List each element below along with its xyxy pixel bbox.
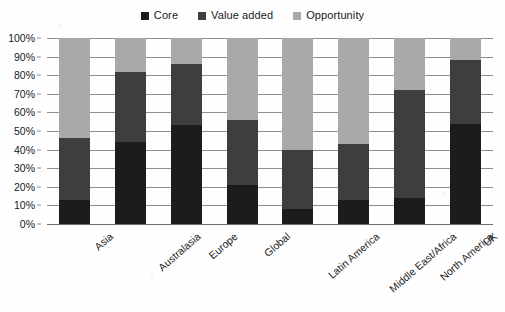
- y-tick-mark: [37, 38, 41, 39]
- x-tick-label: Australasia: [155, 230, 202, 273]
- y-tick-mark: [37, 112, 41, 113]
- y-tick-label: 10%: [14, 199, 35, 211]
- bar-segment[interactable]: [59, 38, 90, 138]
- y-tick-label: 50%: [14, 125, 35, 137]
- bar-segment[interactable]: [227, 38, 258, 120]
- x-tick-label: Asia: [92, 230, 115, 252]
- bar-column[interactable]: [394, 38, 425, 224]
- bar-segment[interactable]: [450, 60, 481, 123]
- bar-segment[interactable]: [115, 142, 146, 224]
- legend-item[interactable]: Opportunity: [293, 10, 364, 21]
- bar-segment[interactable]: [450, 38, 481, 60]
- y-tick-label: 60%: [14, 106, 35, 118]
- legend-label: Core: [154, 10, 178, 21]
- y-tick-mark: [37, 205, 41, 206]
- bar-segment[interactable]: [394, 90, 425, 198]
- legend-swatch-icon: [198, 12, 206, 20]
- y-tick-label: 30%: [14, 162, 35, 174]
- bar-segment[interactable]: [171, 64, 202, 125]
- bar-segment[interactable]: [394, 38, 425, 90]
- bar-segment[interactable]: [227, 185, 258, 224]
- legend-swatch-icon: [141, 12, 149, 20]
- y-tick-mark: [37, 75, 41, 76]
- x-tick-label: Middle East/Africa: [386, 230, 458, 295]
- y-tick-label: 70%: [14, 88, 35, 100]
- bar-segment[interactable]: [282, 38, 313, 150]
- y-tick-mark: [37, 131, 41, 132]
- bar-segment[interactable]: [450, 124, 481, 224]
- bar-segment[interactable]: [338, 144, 369, 200]
- y-tick-label: 0%: [20, 218, 35, 230]
- bar-segment[interactable]: [115, 38, 146, 71]
- bar-column[interactable]: [338, 38, 369, 224]
- y-tick-mark: [37, 93, 41, 94]
- x-tick-label: Latin America: [325, 230, 381, 281]
- bar-column[interactable]: [171, 38, 202, 224]
- bar-column[interactable]: [115, 38, 146, 224]
- y-axis: 0%10%20%30%40%50%60%70%80%90%100%: [0, 38, 41, 224]
- bar-segment[interactable]: [59, 200, 90, 224]
- chart-legend: CoreValue addedOpportunity: [0, 10, 505, 21]
- bar-column[interactable]: [450, 38, 481, 224]
- y-tick-label: 100%: [8, 32, 35, 44]
- bar-segment[interactable]: [394, 198, 425, 224]
- y-tick-label: 80%: [14, 69, 35, 81]
- bar-segment[interactable]: [59, 138, 90, 199]
- y-tick-label: 40%: [14, 144, 35, 156]
- x-tick-label: Global: [262, 230, 293, 259]
- y-tick-mark: [37, 224, 41, 225]
- bar-segment[interactable]: [282, 150, 313, 210]
- legend-swatch-icon: [293, 12, 301, 20]
- bar-segment[interactable]: [115, 72, 146, 143]
- bar-column[interactable]: [59, 38, 90, 224]
- bar-segment[interactable]: [282, 209, 313, 224]
- y-tick-mark: [37, 186, 41, 187]
- bar-segment[interactable]: [338, 38, 369, 144]
- legend-item[interactable]: Core: [141, 10, 178, 21]
- y-tick-mark: [37, 149, 41, 150]
- stacked-bar-chart: CoreValue addedOpportunity 0%10%20%30%40…: [0, 0, 505, 312]
- legend-item[interactable]: Value added: [198, 10, 273, 21]
- x-tick-label: Europe: [207, 230, 240, 261]
- y-tick-label: 90%: [14, 51, 35, 63]
- y-tick-mark: [37, 168, 41, 169]
- bar-segment[interactable]: [227, 120, 258, 185]
- bar-segment[interactable]: [338, 200, 369, 224]
- bar-column[interactable]: [227, 38, 258, 224]
- bar-segment[interactable]: [171, 38, 202, 64]
- legend-label: Opportunity: [306, 10, 364, 21]
- legend-label: Value added: [211, 10, 273, 21]
- y-tick-label: 20%: [14, 181, 35, 193]
- plot-area: [47, 38, 493, 224]
- bar-column[interactable]: [282, 38, 313, 224]
- y-tick-mark: [37, 56, 41, 57]
- gridline: [47, 224, 493, 225]
- bar-group: [47, 38, 493, 224]
- x-axis: AsiaAustralasiaEuropeGlobalLatin America…: [47, 226, 493, 306]
- bar-segment[interactable]: [171, 125, 202, 224]
